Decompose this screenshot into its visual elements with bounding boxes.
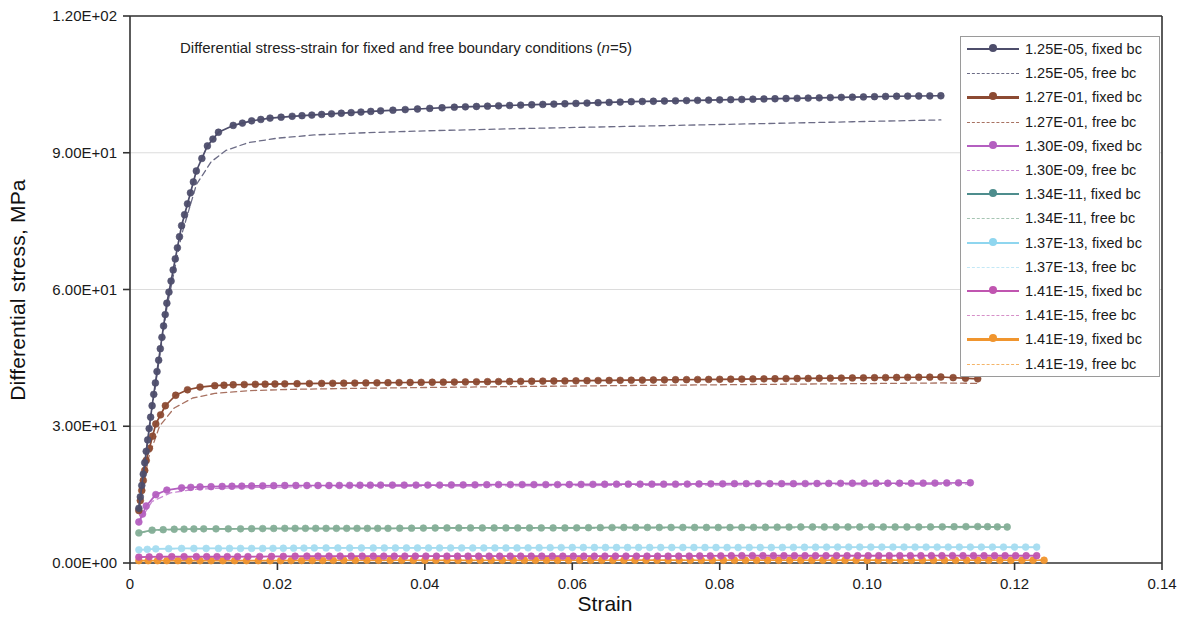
series-marker — [915, 93, 922, 100]
x-tick-label: 0.12 — [1000, 575, 1029, 592]
series-marker — [420, 525, 427, 532]
series-marker — [346, 545, 353, 552]
series-marker — [746, 544, 753, 551]
series-marker — [923, 544, 930, 551]
series-marker — [1033, 544, 1040, 551]
series-marker — [237, 545, 244, 552]
series-marker — [871, 93, 878, 100]
series-marker — [414, 545, 421, 552]
legend-item[interactable]: 1.34E-11, free bc — [961, 206, 1159, 230]
series-marker — [278, 114, 285, 121]
series-marker — [660, 481, 667, 488]
legend-item[interactable]: 1.30E-09, free bc — [961, 158, 1159, 182]
x-tick-label: 0.10 — [853, 575, 882, 592]
series-marker — [514, 544, 521, 551]
series-marker — [306, 380, 313, 387]
series-marker — [165, 545, 172, 552]
series-marker — [657, 544, 664, 551]
series-marker — [590, 481, 597, 488]
y-tick-label: 6.00E+01 — [52, 281, 117, 298]
series-marker — [462, 379, 469, 386]
series-marker — [334, 545, 341, 552]
series-marker — [517, 378, 524, 385]
series-marker — [514, 525, 521, 532]
series-marker — [875, 552, 882, 559]
legend-swatch-icon — [967, 187, 1019, 201]
series-marker — [1041, 557, 1048, 564]
legend-item[interactable]: 1.41E-15, fixed bc — [961, 279, 1159, 303]
series-marker — [458, 545, 465, 552]
series-marker — [550, 101, 557, 108]
series-marker — [362, 380, 369, 387]
chart-canvas: 0.00E+003.00E+016.00E+019.00E+011.20E+02… — [0, 0, 1190, 627]
series-marker — [861, 480, 868, 487]
series-marker — [974, 523, 981, 530]
series-marker — [503, 525, 510, 532]
series-marker — [268, 553, 275, 560]
series-line — [139, 120, 941, 508]
series-marker — [812, 552, 819, 559]
series-marker — [719, 480, 726, 487]
series-marker — [219, 483, 226, 490]
series-marker — [149, 402, 156, 409]
series-marker — [483, 481, 490, 488]
series-marker — [146, 553, 153, 560]
series-marker — [672, 481, 679, 488]
legend-item-label: 1.25E-05, fixed bc — [1025, 41, 1142, 57]
series-marker — [156, 553, 163, 560]
series-marker — [176, 233, 183, 240]
legend-item[interactable]: 1.41E-19, fixed bc — [961, 327, 1159, 351]
legend-item-label: 1.37E-13, free bc — [1025, 259, 1136, 275]
series-marker — [809, 524, 816, 531]
series-marker — [549, 553, 556, 560]
legend-swatch-icon — [967, 284, 1019, 298]
series-marker — [1011, 544, 1018, 551]
x-tick-label: 0 — [126, 575, 134, 592]
series-marker — [163, 300, 170, 307]
series-marker — [374, 379, 381, 386]
series-marker — [834, 544, 841, 551]
legend-item[interactable]: 1.27E-01, fixed bc — [961, 85, 1159, 109]
series-marker — [152, 491, 159, 498]
series-line — [139, 377, 978, 511]
series-marker — [239, 120, 246, 127]
series-marker — [197, 483, 204, 490]
legend-item[interactable]: 1.37E-13, fixed bc — [961, 231, 1159, 255]
legend-item[interactable]: 1.25E-05, fixed bc — [961, 37, 1159, 61]
series-marker — [135, 530, 142, 537]
series-marker — [632, 524, 639, 531]
series-marker — [338, 110, 345, 117]
series-marker — [927, 524, 934, 531]
series-marker — [554, 481, 561, 488]
series-marker — [679, 544, 686, 551]
series-marker — [370, 553, 377, 560]
series-marker — [844, 552, 851, 559]
legend-marker-icon — [989, 189, 997, 197]
series-marker — [229, 483, 236, 490]
legend-item[interactable]: 1.27E-01, free bc — [961, 110, 1159, 134]
series-line — [139, 96, 941, 509]
series-marker — [425, 545, 432, 552]
legend-item[interactable]: 1.37E-13, free bc — [961, 255, 1159, 279]
legend-item[interactable]: 1.41E-15, free bc — [961, 303, 1159, 327]
legend-item[interactable]: 1.41E-19, free bc — [961, 351, 1159, 375]
series-marker — [981, 552, 988, 559]
series-marker — [241, 381, 248, 388]
legend-item[interactable]: 1.30E-09, fixed bc — [961, 134, 1159, 158]
series-marker — [868, 524, 875, 531]
series-marker — [424, 482, 431, 489]
legend-item[interactable]: 1.25E-05, free bc — [961, 61, 1159, 85]
series-marker — [613, 481, 620, 488]
series-marker — [479, 525, 486, 532]
series-marker — [460, 481, 467, 488]
series-marker — [135, 546, 142, 553]
legend-swatch-icon — [967, 211, 1019, 225]
series-marker — [738, 524, 745, 531]
legend-item[interactable]: 1.34E-11, fixed bc — [961, 182, 1159, 206]
y-axis-title: Differential stress, MPa — [6, 179, 30, 401]
series-marker — [259, 545, 266, 552]
series-marker — [816, 375, 823, 382]
series-marker — [797, 524, 804, 531]
series-marker — [528, 101, 535, 108]
series-marker — [152, 545, 159, 552]
